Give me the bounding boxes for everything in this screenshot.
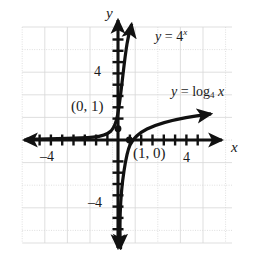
logarithm-curve-label: y = log4 x (171, 85, 224, 100)
grid-lines (22, 27, 232, 243)
y-tick-label-4: 4 (94, 65, 101, 79)
x-axis-label: x (231, 140, 238, 155)
x-tick-label-neg4: –4 (40, 150, 54, 164)
exponential-curve-label: y = 4x (155, 28, 187, 44)
graph-figure: y x 4 –4 –4 4 (0, 1) (1, 0) y = 4x y = l… (0, 0, 259, 258)
point-label-1-0: (1, 0) (133, 146, 166, 161)
log-label-op: = (181, 84, 189, 99)
log-label-arg: x (218, 84, 224, 99)
x-tick-label-4: 4 (183, 151, 190, 165)
log-label-fn: log (192, 84, 210, 99)
exponential-curve-arrow (130, 24, 131, 32)
marked-point-0-1 (115, 125, 122, 132)
point-label-0-1: (0, 1) (71, 99, 104, 114)
exp-label-exponent: x (183, 27, 187, 37)
coordinate-plot (0, 0, 259, 258)
y-tick-label-neg4: –4 (88, 196, 102, 210)
y-axis-label: y (106, 6, 113, 21)
logarithm-curve-arrow (203, 114, 211, 115)
exp-label-op: = (165, 29, 173, 44)
marked-point-1-0 (126, 137, 133, 144)
